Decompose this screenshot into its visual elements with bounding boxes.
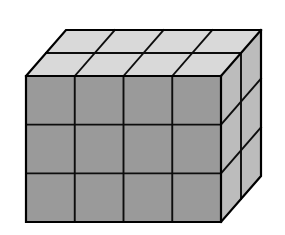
cube-block-diagram: Rectangular block of unit cubes A shaded… bbox=[0, 0, 285, 235]
solid-faces bbox=[26, 30, 261, 222]
figure-root: Rectangular block of unit cubes A shaded… bbox=[0, 0, 285, 235]
